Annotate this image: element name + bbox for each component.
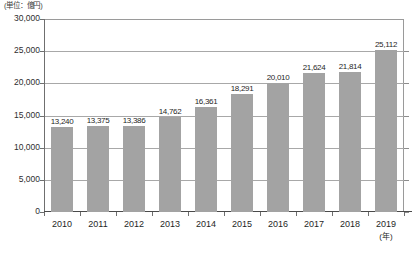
bar [339,72,361,212]
bar-value-label: 25,112 [363,40,409,49]
y-axis-tick-mark [40,19,44,20]
y-axis-tick-label: 0 [0,207,40,216]
bar-value-label: 18,291 [219,84,265,93]
bar-value-label: 20,010 [255,73,301,82]
y-axis-tick-mark-right [404,180,409,181]
x-axis-tick-mark [260,212,261,216]
bar [87,126,109,212]
x-axis-tick-mark [368,212,369,216]
x-axis-tick-mark [80,212,81,216]
bar-value-label: 13,386 [111,116,157,125]
x-axis-unit-label: (年) [364,232,408,242]
y-axis-tick-label: 25,000 [0,46,40,55]
y-axis-tick-label: 5,000 [0,175,40,184]
bar-chart: (単位：億円) 05,00010,00015,00020,00025,00030… [0,0,420,253]
x-axis-tick-mark [332,212,333,216]
bar [123,126,145,212]
y-axis-tick-label: 10,000 [0,143,40,152]
x-axis-tick-mark [296,212,297,216]
x-axis-tick-label: 2019 [364,219,408,230]
bar [51,127,73,212]
bar-value-label: 16,361 [183,97,229,106]
x-axis-tick-mark [116,212,117,216]
y-axis-tick-mark-right [404,51,409,52]
bar [267,83,289,212]
x-axis-tick-mark-origin [44,212,45,216]
y-axis-tick-label: 15,000 [0,111,40,120]
bar [375,50,397,212]
y-axis-tick-label: 20,000 [0,78,40,87]
y-axis-tick-mark-right [404,83,409,84]
bar [231,94,253,212]
y-axis-tick-mark [40,51,44,52]
y-axis-tick-label: 30,000 [0,14,40,23]
y-axis-tick-mark-right [404,116,409,117]
bar [195,107,217,212]
x-axis-tick-mark [404,212,405,216]
bar [159,117,181,212]
unit-caption-label: (単位：億円) [4,1,43,10]
bar [303,73,325,212]
gridline [45,51,404,52]
y-axis-tick-mark [40,83,44,84]
y-axis-tick-mark-right [404,148,409,149]
bar-value-label: 21,814 [327,62,373,71]
y-axis-tick-mark [40,180,44,181]
x-axis-tick-mark [152,212,153,216]
bar-value-label: 14,762 [147,107,193,116]
x-axis-tick-mark [224,212,225,216]
x-axis-tick-mark [188,212,189,216]
y-axis-tick-mark [40,148,44,149]
